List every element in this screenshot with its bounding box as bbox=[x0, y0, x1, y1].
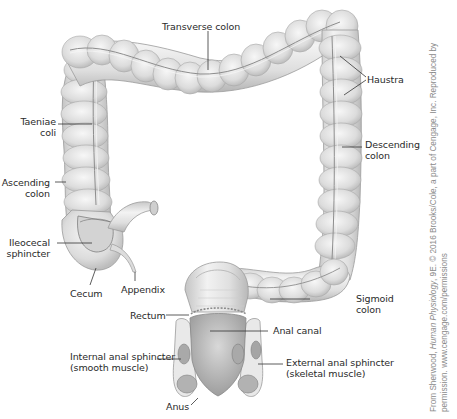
label-sigmoid-colon-line2: colon bbox=[356, 304, 394, 315]
label-internal-anal-sphincter-line2: (smooth muscle) bbox=[70, 362, 175, 373]
label-taeniae-coli-line2: coli bbox=[14, 127, 56, 138]
label-ascending-colon-line1: Ascending bbox=[0, 177, 50, 188]
label-sigmoid-colon-line1: Sigmoid bbox=[356, 293, 394, 304]
credit-prefix: From Sherwood, bbox=[429, 349, 438, 412]
label-appendix: Appendix bbox=[121, 284, 165, 295]
large-intestine-diagram: Transverse colon Haustra Taeniae coli De… bbox=[0, 0, 457, 419]
label-descending-colon-line1: Descending bbox=[365, 139, 420, 150]
label-haustra: Haustra bbox=[367, 74, 404, 85]
label-external-anal-sphincter: External anal sphincter (skeletal muscle… bbox=[286, 357, 394, 379]
label-internal-anal-sphincter-line1: Internal anal sphincter bbox=[70, 351, 175, 362]
label-anus: Anus bbox=[166, 401, 189, 412]
label-sigmoid-colon: Sigmoid colon bbox=[356, 293, 394, 315]
label-ileocecal-sphincter: Ileocecal sphincter bbox=[0, 237, 50, 259]
label-ascending-colon-line2: colon bbox=[0, 188, 50, 199]
label-ascending-colon: Ascending colon bbox=[0, 177, 50, 199]
label-descending-colon: Descending colon bbox=[365, 139, 420, 161]
copyright-credit: From Sherwood, Human Physiology, 9E. © 2… bbox=[428, 43, 450, 412]
credit-line-2: permission. www.cengage.com/permissions bbox=[439, 43, 450, 412]
label-cecum: Cecum bbox=[70, 288, 102, 299]
label-transverse-colon: Transverse colon bbox=[162, 21, 240, 32]
credit-line-1: From Sherwood, Human Physiology, 9E. © 2… bbox=[428, 43, 439, 412]
label-taeniae-coli-line1: Taeniae bbox=[14, 116, 56, 127]
credit-book-title: Human Physiology bbox=[429, 281, 438, 349]
label-rectum: Rectum bbox=[130, 310, 166, 321]
ileum bbox=[108, 201, 158, 232]
anal-region bbox=[173, 314, 262, 397]
label-taeniae-coli: Taeniae coli bbox=[14, 116, 56, 138]
label-ileocecal-sphincter-line2: sphincter bbox=[0, 248, 50, 259]
label-anal-canal: Anal canal bbox=[273, 325, 322, 336]
label-external-anal-sphincter-line1: External anal sphincter bbox=[286, 357, 394, 368]
label-internal-anal-sphincter: Internal anal sphincter (smooth muscle) bbox=[70, 351, 175, 373]
credit-suffix: , 9E. © 2016 Brooks/Cole, a part of Ceng… bbox=[429, 43, 438, 281]
label-ileocecal-sphincter-line1: Ileocecal bbox=[0, 237, 50, 248]
label-external-anal-sphincter-line2: (skeletal muscle) bbox=[286, 368, 394, 379]
label-descending-colon-line2: colon bbox=[365, 150, 420, 161]
descending-colon bbox=[315, 30, 362, 280]
rectum bbox=[185, 262, 248, 314]
